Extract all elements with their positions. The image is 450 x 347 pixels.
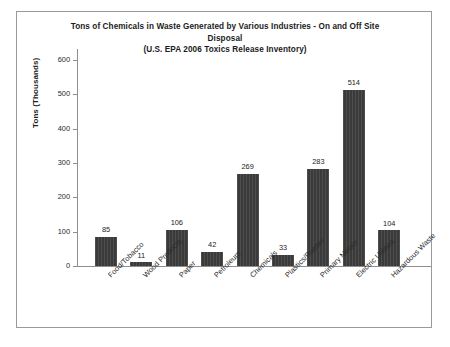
y-axis-tick-mark (73, 197, 78, 198)
bar[interactable] (95, 237, 117, 266)
plot-area: 6005004003002001000 85111064226933283514… (77, 60, 431, 266)
y-axis-tick-label: 300 (58, 158, 70, 167)
bar-value-label: 269 (228, 162, 268, 171)
bar-value-label: 283 (298, 157, 338, 166)
bar-value-label: 106 (157, 218, 197, 227)
bar-value-label: 42 (192, 240, 232, 249)
chart-title-line-1: Tons of Chemicals in Waste Generated by … (37, 21, 413, 33)
bar-value-label: 104 (369, 219, 409, 228)
y-axis-tick-label: 500 (58, 89, 70, 98)
y-axis-tick-label: 400 (58, 124, 70, 133)
y-axis-tick-mark (73, 266, 78, 267)
y-axis-title: Tons (Thousands) (31, 58, 40, 128)
bar-value-label: 514 (334, 78, 374, 87)
y-axis-tick-mark (73, 163, 78, 164)
bar-value-label: 85 (86, 225, 126, 234)
chart-subtitle: (U.S. EPA 2006 Toxics Release Inventory) (37, 44, 413, 56)
y-axis-tick-label: 600 (58, 55, 70, 64)
y-axis-tick-label: 100 (58, 227, 70, 236)
y-axis-tick-mark (73, 94, 78, 95)
y-axis-tick-label: 0 (66, 261, 70, 270)
chart-title-line-2: Disposal (37, 33, 413, 45)
y-axis-tick-label: 200 (58, 192, 70, 201)
y-axis-tick-mark (73, 129, 78, 130)
chart-frame: Tons of Chemicals in Waste Generated by … (16, 11, 432, 328)
y-axis-line (77, 49, 78, 266)
chart-title: Tons of Chemicals in Waste Generated by … (37, 21, 413, 56)
y-axis-tick-mark (73, 232, 78, 233)
y-axis-tick-mark (73, 60, 78, 61)
